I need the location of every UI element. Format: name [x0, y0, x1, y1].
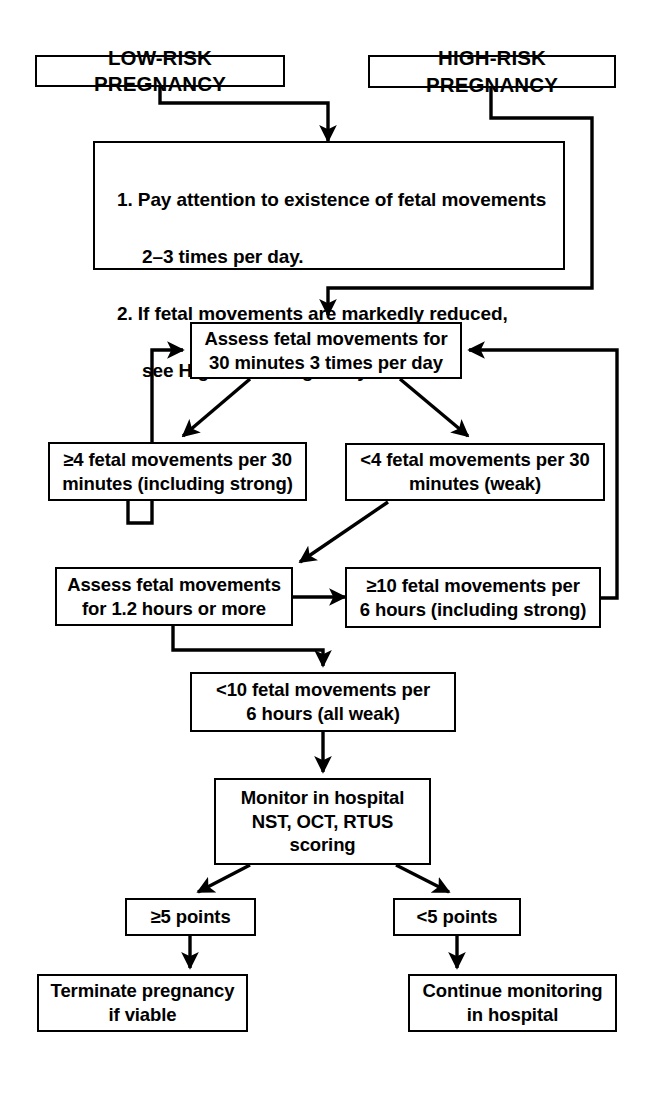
- node-lt10-movements-label: <10 fetal movements per 6 hours (all wea…: [210, 678, 436, 725]
- node-lt10-movements[interactable]: <10 fetal movements per 6 hours (all wea…: [190, 672, 456, 732]
- instruction-line-1: 1. Pay attention to existence of fetal m…: [117, 186, 546, 215]
- edge-monitor-to-ge5: [198, 865, 250, 892]
- node-monitor-in-hospital[interactable]: Monitor in hospital NST, OCT, RTUS scori…: [214, 778, 431, 865]
- node-ge4-movements[interactable]: ≥4 fetal movements per 30 minutes (inclu…: [48, 442, 307, 501]
- node-high-risk-pregnancy-label: HIGH-RISK PREGNANCY: [370, 45, 614, 97]
- node-assess-30-minutes[interactable]: Assess fetal movements for 30 minutes 3 …: [190, 322, 462, 379]
- node-continue-monitoring[interactable]: Continue monitoring in hospital: [408, 974, 617, 1032]
- node-ge5-points[interactable]: ≥5 points: [125, 898, 256, 936]
- node-assess-12-hours[interactable]: Assess fetal movements for 1.2 hours or …: [55, 567, 293, 626]
- node-assess-30-minutes-label: Assess fetal movements for 30 minutes 3 …: [198, 327, 453, 374]
- node-instructions[interactable]: 1. Pay attention to existence of fetal m…: [93, 141, 565, 270]
- instruction-line-2: 2–3 times per day.: [117, 243, 546, 272]
- node-assess-12-hours-label: Assess fetal movements for 1.2 hours or …: [61, 573, 287, 620]
- node-low-risk-pregnancy-label: LOW-RISK PREGNANCY: [37, 45, 283, 97]
- node-lt4-movements-label: <4 fetal movements per 30 minutes (weak): [354, 448, 595, 495]
- flowchart-canvas: LOW-RISK PREGNANCY HIGH-RISK PREGNANCY 1…: [0, 0, 658, 1094]
- edge-lt4-to-assess-12h: [300, 502, 388, 562]
- node-terminate-pregnancy[interactable]: Terminate pregnancy if viable: [37, 974, 248, 1032]
- node-ge5-points-label: ≥5 points: [144, 905, 236, 929]
- node-ge10-movements[interactable]: ≥10 fetal movements per 6 hours (includi…: [345, 567, 601, 628]
- edge-assess-12h-to-lt10: [173, 626, 323, 666]
- node-lt5-points[interactable]: <5 points: [393, 898, 521, 936]
- node-ge10-movements-label: ≥10 fetal movements per 6 hours (includi…: [354, 574, 593, 621]
- node-monitor-in-hospital-label: Monitor in hospital NST, OCT, RTUS scori…: [235, 786, 411, 857]
- node-low-risk-pregnancy[interactable]: LOW-RISK PREGNANCY: [35, 55, 285, 87]
- node-lt4-movements[interactable]: <4 fetal movements per 30 minutes (weak): [345, 443, 605, 501]
- node-ge4-movements-label: ≥4 fetal movements per 30 minutes (inclu…: [56, 448, 299, 495]
- node-lt5-points-label: <5 points: [411, 905, 504, 929]
- edge-monitor-to-lt5: [396, 865, 449, 892]
- node-high-risk-pregnancy[interactable]: HIGH-RISK PREGNANCY: [368, 55, 616, 88]
- node-continue-monitoring-label: Continue monitoring in hospital: [417, 979, 609, 1026]
- node-terminate-pregnancy-label: Terminate pregnancy if viable: [45, 979, 241, 1026]
